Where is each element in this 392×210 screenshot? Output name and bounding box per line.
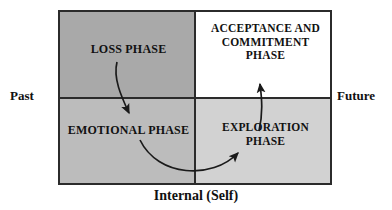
divider-horizontal [60, 97, 330, 99]
axis-label-internal-self: Internal (Self) [0, 188, 392, 204]
diagram-canvas: Past Future LOSS PHASE ACCEPTANCE AND CO… [0, 0, 392, 210]
quadrant-label-loss: LOSS PHASE [60, 42, 197, 56]
quadrant-matrix: LOSS PHASE ACCEPTANCE AND COMMITMENT PHA… [58, 10, 332, 185]
quadrant-label-exploration: EXPLORATION PHASE [197, 121, 334, 148]
quadrant-emotional [60, 98, 195, 184]
axis-label-future: Future [337, 88, 375, 104]
quadrant-label-emotional: EMOTIONAL PHASE [60, 123, 197, 137]
quadrant-label-acceptance-commitment: ACCEPTANCE AND COMMITMENT PHASE [197, 22, 334, 63]
axis-label-past: Past [10, 88, 34, 104]
